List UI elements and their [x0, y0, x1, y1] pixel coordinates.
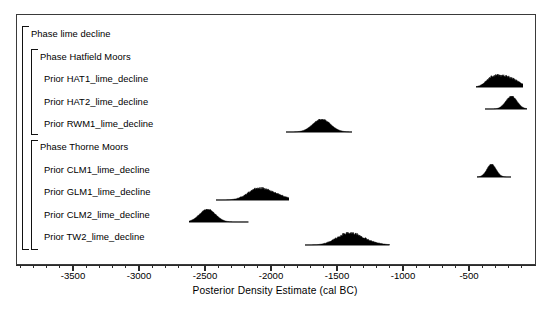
- axis-minor-tick: [231, 265, 232, 268]
- axis-minor-tick: [178, 265, 179, 268]
- row-label-phase-hatfield-moors: Phase Hatfield Moors: [40, 52, 131, 62]
- row-label-prior-clm2-lime-decline: Prior CLM2_lime_decline: [44, 210, 150, 220]
- axis-minor-tick: [59, 265, 60, 268]
- axis-minor-tick: [416, 265, 417, 268]
- bracket-phase-hatfield-moors: [31, 49, 38, 135]
- axis-minor-tick: [86, 265, 87, 268]
- axis-minor-tick: [521, 265, 522, 268]
- axis-minor-tick: [46, 265, 47, 268]
- density-curve: [305, 232, 389, 245]
- axis-minor-tick: [455, 265, 456, 268]
- axis-tick-label: -500: [459, 270, 478, 281]
- axis-minor-tick: [310, 265, 311, 268]
- row-label-prior-clm1-lime-decline: Prior CLM1_lime_decline: [44, 165, 150, 175]
- axis-minor-tick: [33, 265, 34, 268]
- density-curve: [216, 187, 290, 200]
- axis-tick-label: -1500: [325, 270, 350, 281]
- axis-minor-tick: [508, 265, 509, 268]
- axis-minor-tick: [218, 265, 219, 268]
- row-label-phase-lime-decline: Phase lime decline: [31, 29, 111, 39]
- x-axis-line: [16, 265, 536, 266]
- x-axis-title: Posterior Density Estimate (cal BC): [0, 285, 550, 296]
- axis-minor-tick: [323, 265, 324, 268]
- density-curve: [286, 119, 352, 132]
- density-curve: [477, 164, 511, 177]
- axis-tick-label: -1000: [391, 270, 416, 281]
- density-curve: [485, 96, 527, 109]
- axis-minor-tick: [244, 265, 245, 268]
- axis-tick-label: -2000: [259, 270, 284, 281]
- axis-minor-tick: [376, 265, 377, 268]
- axis-tick-label: -2500: [193, 270, 218, 281]
- bracket-phase-thorne-moors: [31, 140, 38, 250]
- axis-minor-tick: [99, 265, 100, 268]
- row-label-phase-thorne-moors: Phase Thorne Moors: [40, 142, 128, 152]
- row-label-prior-rwm1-lime-decline: Prior RWM1_lime_decline: [44, 119, 153, 129]
- axis-minor-tick: [350, 265, 351, 268]
- density-curve: [189, 209, 248, 222]
- axis-minor-tick: [442, 265, 443, 268]
- row-label-prior-hat2-lime-decline: Prior HAT2_lime_decline: [44, 97, 148, 107]
- axis-minor-tick: [389, 265, 390, 268]
- density-curve: [476, 74, 524, 87]
- axis-tick-label: -3000: [127, 270, 152, 281]
- axis-minor-tick: [257, 265, 258, 268]
- axis-minor-tick: [125, 265, 126, 268]
- axis-minor-tick: [20, 265, 21, 268]
- axis-minor-tick: [152, 265, 153, 268]
- axis-minor-tick: [165, 265, 166, 268]
- row-label-prior-hat1-lime-decline: Prior HAT1_lime_decline: [44, 74, 148, 84]
- row-label-prior-tw2-lime-decline: Prior TW2_lime_decline: [44, 232, 144, 242]
- posterior-density-figure: Phase lime decline Phase Hatfield Moors …: [0, 0, 550, 309]
- axis-minor-tick: [429, 265, 430, 268]
- row-label-prior-glm1-lime-decline: Prior GLM1_lime_decline: [44, 187, 150, 197]
- bracket-phase-lime-decline: [22, 26, 29, 250]
- axis-tick-label: -3500: [61, 270, 86, 281]
- axis-minor-tick: [297, 265, 298, 268]
- axis-minor-tick: [284, 265, 285, 268]
- axis-minor-tick: [363, 265, 364, 268]
- axis-minor-tick: [112, 265, 113, 268]
- axis-minor-tick: [495, 265, 496, 268]
- axis-minor-tick: [191, 265, 192, 268]
- axis-minor-tick: [482, 265, 483, 268]
